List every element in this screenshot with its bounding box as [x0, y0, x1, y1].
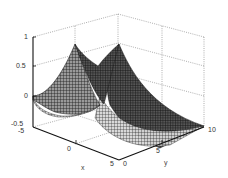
surface-plot: 1 0.5 0 -0.5 -5 0 5 0 5 10 x y [0, 0, 228, 178]
z-tick-label: 1 [24, 33, 28, 40]
x-axis [33, 127, 119, 160]
y-tick-label: 10 [208, 126, 216, 133]
z-tick-label: -0.5 [11, 120, 23, 127]
z-tick-label: 0.5 [16, 62, 26, 69]
x-tick-label: -5 [18, 127, 24, 134]
y-axis-label: y [164, 159, 168, 167]
x-tick-label: 0 [67, 145, 71, 152]
y-tick-label: 5 [156, 147, 160, 154]
y-tick-label: 0 [123, 160, 127, 167]
x-tick-label: 5 [110, 160, 114, 167]
z-tick-label: 0 [24, 92, 28, 99]
x-axis-label: x [81, 164, 85, 171]
